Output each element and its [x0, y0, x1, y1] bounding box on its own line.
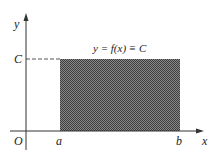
y-axis-arrow-icon [24, 13, 29, 21]
a-label: a [56, 134, 62, 148]
c-label: C [14, 52, 23, 66]
function-label: y = f(x) ≡ C [92, 42, 147, 55]
x-axis-arrow-icon [196, 129, 204, 134]
y-axis-label: y [13, 17, 20, 31]
origin-label: O [14, 134, 23, 148]
x-axis-label: x [201, 134, 208, 148]
b-label: b [176, 134, 182, 148]
shaded-region [60, 59, 180, 131]
constant-function-diagram: y C O a b x y = f(x) ≡ C [0, 0, 219, 162]
